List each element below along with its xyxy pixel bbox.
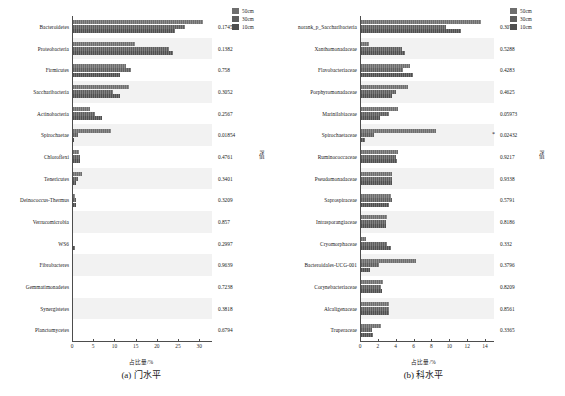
bar-30cm-Ruminococcaceae bbox=[360, 155, 396, 159]
bar-30cm-norank_p_Saccharibacteria bbox=[360, 25, 446, 29]
legend-label: 10cm bbox=[242, 24, 254, 30]
x-tick bbox=[449, 339, 450, 342]
bar-10cm-Saccharibacteria bbox=[72, 94, 120, 98]
row-band bbox=[360, 124, 494, 146]
category-label-Saprospiraceae: Saprospiraceae bbox=[282, 197, 357, 203]
p-value-Cryomorphaceae: 0.332 bbox=[500, 241, 512, 247]
p-value-Flavobacteriaceae: 0.4283 bbox=[500, 67, 515, 73]
p-value-Verrucomicrobia: 0.857 bbox=[218, 219, 230, 225]
x-tick-label-14: 14 bbox=[482, 343, 487, 349]
category-label-Alcaligenaceae: Alcaligenaceae bbox=[282, 306, 357, 312]
bar-30cm-Chloroflexi bbox=[72, 155, 80, 159]
bar-50cm-norank_p_Saccharibacteria bbox=[360, 20, 481, 24]
p-value-Pseudomonadaceae: 0.9338 bbox=[500, 176, 515, 182]
legend-swatch-icon bbox=[232, 24, 239, 30]
category-label-Planctomycetes: Planctomycetes bbox=[0, 327, 69, 333]
bar-30cm-Bacteroidetes bbox=[72, 25, 185, 29]
category-label-Marinilabiaceae: Marinilabiaceae bbox=[282, 111, 357, 117]
bar-50cm-Cryomorphaceae bbox=[360, 237, 366, 241]
category-label-Corynebacteriaceae: Corynebacteriaceae bbox=[282, 284, 357, 290]
x-tick bbox=[136, 339, 137, 342]
x-tick-label-30: 30 bbox=[197, 343, 202, 349]
legend-swatch-icon bbox=[510, 16, 517, 22]
category-label-norank_p_Saccharibacteria: norank_p_Saccharibacteria bbox=[282, 24, 357, 30]
bar-50cm-Truperaceae bbox=[360, 324, 381, 328]
bar-30cm-Porphyromonadaceae bbox=[360, 90, 396, 94]
bar-30cm-Marinilabiaceae bbox=[360, 112, 389, 116]
bar-10cm-Saprospiraceae bbox=[360, 203, 389, 207]
x-tick-label-5: 5 bbox=[92, 343, 95, 349]
p-value-Alcaligenaceae: 0.8561 bbox=[500, 306, 515, 312]
bar-50cm-Chloroflexi bbox=[72, 150, 79, 154]
bar-30cm-Actinobacteria bbox=[72, 112, 95, 116]
bar-10cm-Porphyromonadaceae bbox=[360, 94, 392, 98]
x-tick-label-8: 8 bbox=[430, 343, 433, 349]
bar-10cm-Tenericutes bbox=[72, 181, 76, 185]
x-axis-line bbox=[360, 341, 494, 342]
bar-50cm-Tenericutes bbox=[72, 172, 82, 176]
bar-50cm-Ruminococcaceae bbox=[360, 150, 398, 154]
bar-50cm-Deinococcus-Thermus bbox=[72, 194, 75, 198]
category-label-Cryomorphaceae: Cryomorphaceae bbox=[282, 241, 357, 247]
legend-item-50cm: 50cm bbox=[510, 7, 532, 14]
bar-30cm-Pseudomonadaceae bbox=[360, 177, 392, 181]
bar-10cm-Flavobacteriaceae bbox=[360, 73, 413, 77]
p-value-Bacteroidetes: 0.1745 bbox=[218, 24, 233, 30]
row-band bbox=[72, 254, 212, 276]
category-label-Xanthomonadaceae: Xanthomonadaceae bbox=[282, 46, 357, 52]
p-value-Proteobacteria: 0.1382 bbox=[218, 46, 233, 52]
plot-area bbox=[72, 16, 212, 341]
p-value-Porphyromonadaceae: 0.4625 bbox=[500, 89, 515, 95]
row-band bbox=[72, 211, 212, 233]
category-label-Synergistetes: Synergistetes bbox=[0, 306, 69, 312]
bar-10cm-Bacteroidales-UCG-001 bbox=[360, 268, 370, 272]
p-value-Tenericutes: 0.3401 bbox=[218, 176, 233, 182]
bar-10cm-Truperaceae bbox=[360, 333, 373, 337]
bar-30cm-Saccharibacteria bbox=[72, 90, 113, 94]
x-tick-label-2: 2 bbox=[377, 343, 380, 349]
p-value-Corynebacteriaceae: 0.8209 bbox=[500, 284, 515, 290]
x-tick-label-0: 0 bbox=[71, 343, 74, 349]
bar-30cm-Bacteroidales-UCG-001 bbox=[360, 263, 379, 267]
p-value-axis-title: P值 bbox=[538, 150, 546, 160]
p-value-Xanthomonadaceae: 0.5288 bbox=[500, 46, 515, 52]
row-band bbox=[360, 254, 494, 276]
p-value-Intrasporangiaceae: 0.8186 bbox=[500, 219, 515, 225]
category-label-Spirochaetae: Spirochaetae bbox=[0, 132, 69, 138]
bar-10cm-Marinilabiaceae bbox=[360, 116, 380, 120]
p-value-Gemmatimonadetes: 0.7238 bbox=[218, 284, 233, 290]
legend-item-10cm: 10cm bbox=[510, 23, 532, 30]
x-tick bbox=[431, 339, 432, 342]
x-tick bbox=[199, 339, 200, 342]
bar-10cm-Xanthomonadaceae bbox=[360, 51, 405, 55]
legend-label: 10cm bbox=[520, 24, 532, 30]
category-label-Saccharibacteria: Saccharibacteria bbox=[0, 89, 69, 95]
p-value-Ruminococcaceae: 0.9217 bbox=[500, 154, 515, 160]
bar-50cm-Porphyromonadaceae bbox=[360, 85, 408, 89]
x-tick-label-10: 10 bbox=[447, 343, 452, 349]
bar-30cm-Flavobacteriaceae bbox=[360, 68, 403, 72]
p-value-Planctomycetes: 0.6794 bbox=[218, 327, 233, 333]
p-value-Spirochaetaceae: 0.02432 bbox=[500, 132, 517, 138]
category-label-Porphyromonadaceae: Porphyromonadaceae bbox=[282, 89, 357, 95]
category-label-Truperaceae: Truperaceae bbox=[282, 327, 357, 333]
legend-swatch-icon bbox=[510, 8, 517, 14]
p-value-Synergistetes: 0.3818 bbox=[218, 306, 233, 312]
x-axis-title: 占比量/% bbox=[282, 358, 565, 366]
legend-swatch-icon bbox=[232, 8, 239, 14]
legend-label: 30cm bbox=[520, 16, 532, 22]
category-label-Actinobacteria: Actinobacteria bbox=[0, 111, 69, 117]
bar-30cm-Cryomorphaceae bbox=[360, 242, 387, 246]
bar-30cm-Spirochaetae bbox=[72, 133, 78, 137]
p-value-Deinococcus-Thermus: 0.3209 bbox=[218, 197, 233, 203]
category-label-Flavobacteriaceae: Flavobacteriaceae bbox=[282, 67, 357, 73]
p-value-Truperaceae: 0.3365 bbox=[500, 327, 515, 333]
panel-caption: (a) 门水平 bbox=[0, 368, 282, 381]
bar-10cm-Ruminococcaceae bbox=[360, 159, 397, 163]
bar-50cm-Flavobacteriaceae bbox=[360, 64, 410, 68]
bar-50cm-Marinilabiaceae bbox=[360, 107, 398, 111]
chart-panel-family: norank_p_Saccharibacteria0.3076Xanthomon… bbox=[282, 0, 565, 396]
category-label-Intrasporangiaceae: Intrasporangiaceae bbox=[282, 219, 357, 225]
p-value-Bacteroidales-UCG-001: 0.3796 bbox=[500, 262, 515, 268]
p-value-Actinobacteria: 0.2567 bbox=[218, 111, 233, 117]
